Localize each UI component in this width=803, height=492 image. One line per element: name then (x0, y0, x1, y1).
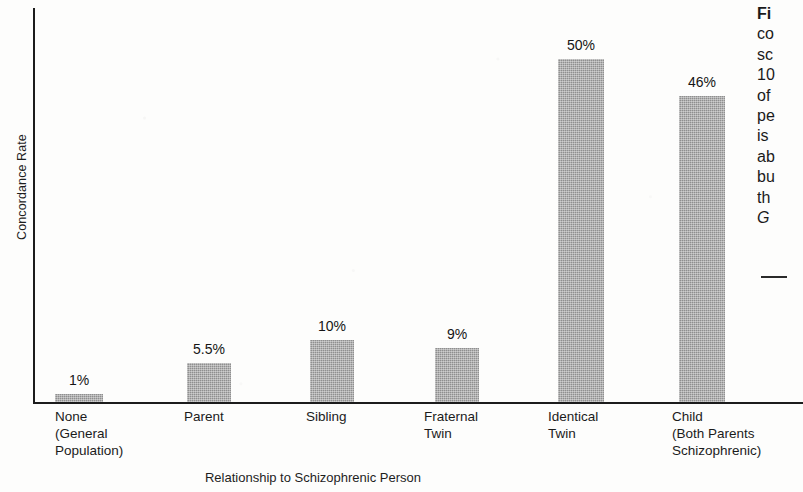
bar-value-label: 10% (318, 318, 346, 334)
bar-group[interactable]: 5.5% (187, 0, 231, 404)
bar-value-label: 5.5% (193, 341, 225, 357)
bar-value-label: 9% (447, 326, 467, 342)
caption-rule (761, 276, 787, 278)
bar-group[interactable]: 1% (55, 0, 103, 404)
bar-rect[interactable] (55, 394, 103, 402)
bar-value-label: 50% (567, 37, 595, 53)
bar-rect[interactable] (187, 363, 231, 402)
caption-lead: Fi (757, 4, 803, 24)
caption-source-line: G (757, 208, 803, 228)
bar-group[interactable]: 9% (435, 0, 479, 404)
bar-rect[interactable] (558, 59, 604, 402)
bar-value-label: 46% (688, 74, 716, 90)
caption-line: is (757, 126, 803, 146)
caption-line: pe (757, 106, 803, 126)
caption-line: bu (757, 167, 803, 187)
bar-rect[interactable] (435, 348, 479, 402)
x-axis-title: Relationship to Schizophrenic Person (33, 470, 593, 485)
chart-plot-area: Concordance Rate Relationship to Schizop… (0, 0, 735, 492)
figure-caption: Ficosc10ofpeisabbuthG (757, 4, 803, 228)
bar-category-label: Identical Twin (548, 408, 598, 442)
caption-line: of (757, 86, 803, 106)
bar-group[interactable]: 10% (310, 0, 354, 404)
bar-category-label: Sibling (306, 408, 347, 425)
caption-line: 10 (757, 65, 803, 85)
bar-series: 1%None (General Population)5.5%Parent10%… (0, 0, 803, 404)
bar-category-label: Fraternal Twin (424, 408, 478, 442)
caption-line: co (757, 24, 803, 44)
bar-rect[interactable] (310, 340, 354, 402)
bar-category-label: Child (Both Parents Schizophrenic) (672, 408, 761, 459)
caption-line: ab (757, 147, 803, 167)
caption-line: th (757, 188, 803, 208)
bar-category-label: None (General Population) (55, 408, 123, 459)
bar-category-label: Parent (184, 408, 224, 425)
figure-root: Concordance Rate Relationship to Schizop… (0, 0, 803, 492)
bar-value-label: 1% (69, 372, 89, 388)
bar-group[interactable]: 46% (679, 0, 725, 404)
bar-group[interactable]: 50% (558, 0, 604, 404)
caption-line: sc (757, 45, 803, 65)
bar-rect[interactable] (679, 96, 725, 402)
